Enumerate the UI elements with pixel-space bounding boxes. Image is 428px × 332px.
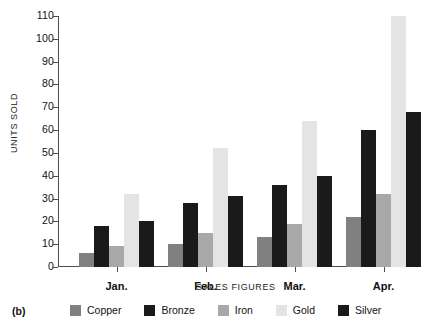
legend-item-iron[interactable]: Iron bbox=[218, 304, 253, 316]
y-tick-label: 10 bbox=[42, 237, 54, 250]
bar-group: Apr. bbox=[343, 16, 425, 267]
y-axis-title: UNITS SOLD bbox=[9, 78, 19, 168]
x-tick-mark bbox=[206, 267, 207, 272]
x-axis-title: SALES FIGURES bbox=[58, 282, 414, 292]
bar-group-bars bbox=[254, 16, 336, 267]
y-tick-label: 60 bbox=[42, 123, 54, 136]
x-tick-mark bbox=[295, 267, 296, 272]
chart-legend: CopperBronzeIronGoldSilver bbox=[70, 304, 420, 316]
bar-copper-mar bbox=[257, 237, 272, 267]
bar-group: Jan. bbox=[76, 16, 158, 267]
y-tick-label: 80 bbox=[42, 77, 54, 90]
bar-chart-figure: UNITS SOLD 0102030405060708090100110 Jan… bbox=[0, 0, 428, 332]
y-axis-line bbox=[58, 16, 59, 267]
y-tick-label: 50 bbox=[42, 146, 54, 159]
bar-bronze-apr bbox=[361, 130, 376, 267]
legend-item-bronze[interactable]: Bronze bbox=[144, 304, 194, 316]
bar-bronze-mar bbox=[272, 185, 287, 267]
y-tick-label: 110 bbox=[37, 9, 54, 22]
legend-label-gold: Gold bbox=[293, 304, 315, 316]
legend-item-gold[interactable]: Gold bbox=[276, 304, 315, 316]
y-tick-label: 40 bbox=[42, 169, 54, 182]
bar-copper-jan bbox=[79, 253, 94, 267]
bar-silver-feb bbox=[228, 196, 243, 267]
legend-swatch-iron bbox=[218, 305, 229, 316]
bar-silver-mar bbox=[317, 176, 332, 267]
bar-bronze-jan bbox=[94, 226, 109, 267]
legend-swatch-bronze bbox=[144, 305, 155, 316]
bar-gold-mar bbox=[302, 121, 317, 267]
bar-group: Mar. bbox=[254, 16, 336, 267]
bar-iron-feb bbox=[198, 233, 213, 267]
legend-label-silver: Silver bbox=[355, 304, 381, 316]
legend-label-iron: Iron bbox=[235, 304, 253, 316]
bar-gold-feb bbox=[213, 148, 228, 267]
plot-area: 0102030405060708090100110 Jan.Feb.Mar.Ap… bbox=[58, 16, 414, 267]
bar-copper-apr bbox=[346, 217, 361, 267]
bar-iron-jan bbox=[109, 246, 124, 267]
bar-silver-apr bbox=[406, 112, 421, 267]
y-tick-label: 70 bbox=[42, 100, 54, 113]
bar-copper-feb bbox=[168, 244, 183, 267]
legend-swatch-gold bbox=[276, 305, 287, 316]
bar-group: Feb. bbox=[165, 16, 247, 267]
bar-group-bars bbox=[343, 16, 425, 267]
bar-bronze-feb bbox=[183, 203, 198, 267]
y-tick-label: 90 bbox=[42, 55, 54, 68]
legend-item-copper[interactable]: Copper bbox=[70, 304, 121, 316]
legend-label-bronze: Bronze bbox=[161, 304, 194, 316]
bar-group-bars bbox=[165, 16, 247, 267]
figure-caption: (b) bbox=[12, 305, 25, 317]
legend-label-copper: Copper bbox=[87, 304, 121, 316]
x-tick-mark bbox=[384, 267, 385, 272]
legend-item-silver[interactable]: Silver bbox=[338, 304, 381, 316]
bar-iron-apr bbox=[376, 194, 391, 267]
y-tick-label: 100 bbox=[36, 32, 54, 45]
bar-gold-apr bbox=[391, 16, 406, 267]
bar-iron-mar bbox=[287, 224, 302, 267]
bar-silver-jan bbox=[139, 221, 154, 267]
y-tick-label: 20 bbox=[42, 214, 54, 227]
legend-swatch-silver bbox=[338, 305, 349, 316]
y-tick-label: 0 bbox=[48, 260, 54, 273]
legend-swatch-copper bbox=[70, 305, 81, 316]
x-tick-mark bbox=[117, 267, 118, 272]
bar-group-bars bbox=[76, 16, 158, 267]
y-tick-label: 30 bbox=[42, 192, 54, 205]
bar-gold-jan bbox=[124, 194, 139, 267]
